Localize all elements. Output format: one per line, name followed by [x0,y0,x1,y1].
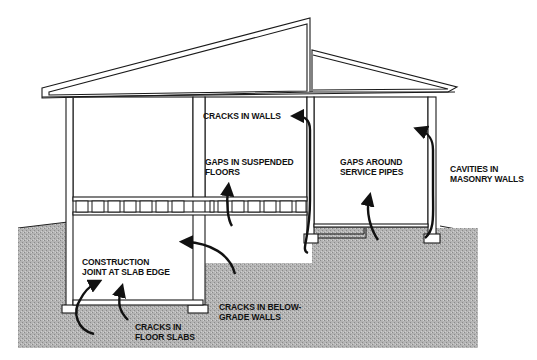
label-cracks-in-walls: CRACKS IN WALLS [203,112,281,122]
label-cracks-below-grade: CRACKS IN BELOW- GRADE WALLS [219,303,301,322]
floor-joists [76,201,306,212]
label-construction-joint: CONSTRUCTION JOINT AT SLAB EDGE [82,258,170,277]
radon-entry-diagram: CRACKS IN WALLS GAPS IN SUSPENDED FLOORS… [0,0,537,360]
label-cracks-floor-slabs: CRACKS IN FLOOR SLABS [135,323,195,342]
label-cavities-masonry: CAVITIES IN MASONRY WALLS [450,165,524,184]
label-gaps-service-pipes: GAPS AROUND SERVICE PIPES [340,158,403,177]
roof [42,18,457,98]
crawlspace [205,225,312,263]
label-gaps-suspended-floors: GAPS IN SUSPENDED FLOORS [205,158,294,177]
